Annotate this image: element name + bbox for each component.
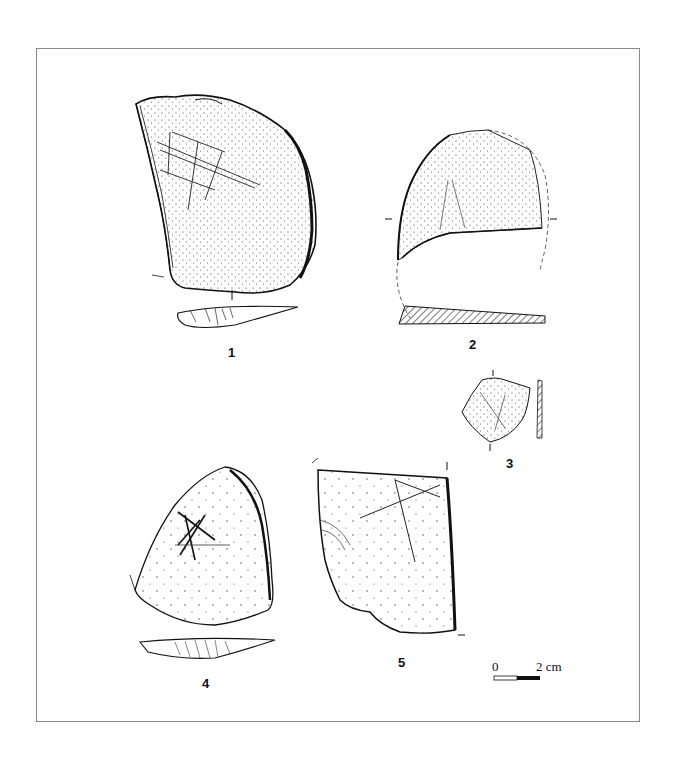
- artifact-3-label: 3: [506, 456, 513, 471]
- artifact-4: [130, 467, 275, 658]
- artifact-5-label: 5: [398, 655, 405, 670]
- artifact-1-label: 1: [228, 345, 235, 360]
- artifact-drawings: [0, 0, 677, 767]
- scale-end-label: 2 cm: [536, 659, 562, 675]
- artifact-5: [312, 458, 465, 635]
- scale-start-label: 0: [492, 659, 499, 675]
- scale-bar: [494, 676, 540, 680]
- artifact-1: [136, 95, 316, 327]
- artifact-4-label: 4: [202, 676, 209, 691]
- artifact-2-label: 2: [469, 337, 476, 352]
- artifact-3: [462, 370, 542, 451]
- artifact-2: [385, 130, 557, 324]
